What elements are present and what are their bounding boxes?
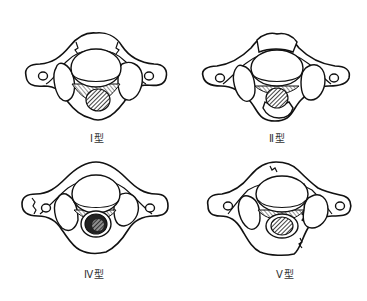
panel-label-type-4: Ⅳ型 xyxy=(84,266,105,281)
panel-type-5: Ⅴ型 xyxy=(200,158,360,258)
vertebra-type-1-drawing xyxy=(18,28,173,123)
panel-label-type-2: Ⅱ型 xyxy=(269,130,286,145)
vertebra-type-5-drawing xyxy=(200,158,360,258)
vertebra-type-4-drawing xyxy=(18,158,173,258)
panel-type-1: Ⅰ型 xyxy=(18,28,173,123)
panel-type-4: Ⅳ型 xyxy=(18,158,173,258)
vertebra-type-2-drawing xyxy=(197,28,357,123)
panel-type-2: Ⅱ型 xyxy=(197,28,357,123)
panel-label-type-5: Ⅴ型 xyxy=(276,266,295,281)
panel-label-type-1: Ⅰ型 xyxy=(90,130,105,145)
